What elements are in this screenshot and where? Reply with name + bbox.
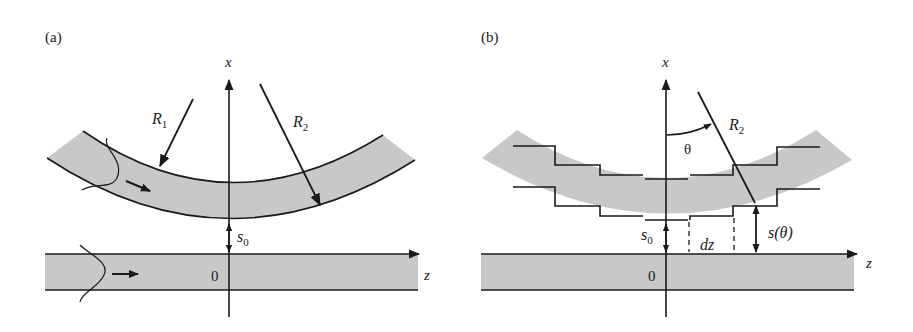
straight-waveguide-b [481,254,854,290]
x-axis-label: x [224,54,232,70]
s0-b-label: s0 [641,226,653,246]
panel-a: (a) x z 0 R1 R2 s0 [45,29,430,317]
figure-canvas: (a) x z 0 R1 R2 s0 (b) [0,0,913,332]
panel-b: (b) x z 0 R2 θ s0 dz [481,29,872,317]
z-axis-label: z [423,267,430,283]
theta-label: θ [684,141,691,157]
s0-label: s0 [237,228,249,248]
theta-arc-arrow [667,124,711,135]
straight-waveguide [45,254,418,290]
s-theta-label: s(θ) [768,224,793,242]
r2-b-label: R2 [728,116,744,136]
origin-b-label: 0 [648,268,656,284]
dz-label: dz [700,236,715,253]
z-axis-b-label: z [865,255,872,271]
panel-a-label: (a) [45,29,62,46]
r1-label: R1 [151,110,167,130]
origin-label: 0 [211,268,219,284]
x-axis-b-label: x [661,54,669,70]
r2-label: R2 [292,113,308,133]
curved-waveguide-band [482,130,852,214]
r1-radius-arrow [160,99,193,166]
panel-b-label: (b) [481,29,499,46]
